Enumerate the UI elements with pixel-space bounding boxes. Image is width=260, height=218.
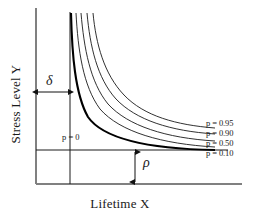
curve-p-050 [81, 13, 215, 141]
curve-p-0-bold [71, 13, 215, 150]
curve-p-095 [93, 13, 215, 128]
legend-item-p-095: p = 0.95 [206, 118, 233, 128]
legend-item-p-010: p = 0.10 [206, 148, 233, 158]
plot-canvas [0, 0, 260, 218]
y-axis-title: Stress Level Y [8, 44, 24, 164]
delta-symbol: δ [46, 73, 53, 89]
rho-symbol: ρ [143, 155, 150, 171]
legend-item-p-090: p = 0.90 [206, 128, 233, 138]
stress-lifetime-figure: δ ρ p = 0 p = 0.95 p = 0.90 p = 0.50 p =… [0, 0, 260, 218]
legend-item-p-050: p = 0.50 [206, 138, 233, 148]
curve-p-090 [87, 13, 215, 134]
curve-label-p-0: p = 0 [62, 132, 80, 142]
x-axis-title: Lifetime X [40, 196, 200, 212]
